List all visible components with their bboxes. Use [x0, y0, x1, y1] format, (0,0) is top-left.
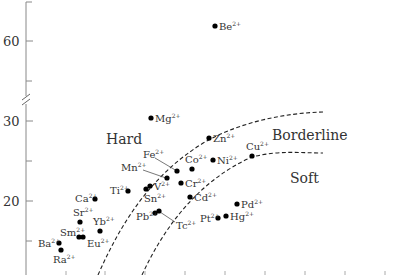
point-hg: [223, 213, 228, 218]
label-pd: Pd2+: [241, 198, 263, 210]
label-ca: Ca2+: [75, 192, 97, 204]
point-fe: [174, 168, 179, 173]
label-mg: Mg2+: [155, 112, 181, 124]
label-cu: Cu2+: [246, 140, 269, 152]
y-tick-label-60: 60: [3, 34, 20, 49]
point-ni: [210, 157, 215, 162]
point-pd: [234, 201, 239, 206]
label-pb: Pb2+: [136, 210, 158, 222]
point-sr: [77, 219, 82, 224]
label-ni: Ni2+: [217, 154, 238, 166]
label-be: Be2+: [219, 20, 241, 32]
point-sn: [143, 186, 148, 191]
ion-labels: Be2+ Mg2+ Zn2+ Cu2+ Ni2+ Co2+ Fe2+ Mn2+ …: [38, 20, 269, 265]
label-zn: Zn2+: [213, 132, 235, 144]
label-cd: Cd2+: [194, 191, 217, 203]
label-sn: Sn2+: [144, 192, 166, 204]
point-cd: [187, 194, 192, 199]
point-cr: [178, 180, 183, 185]
label-mn: Mn2+: [121, 161, 147, 173]
label-co: Co2+: [185, 153, 208, 165]
label-hg: Hg2+: [230, 210, 254, 222]
hsab-scatter-chart: 60 30 20 Hard Borderline Soft: [0, 0, 411, 275]
label-ba: Ba2+: [38, 237, 60, 249]
label-ra: Ra2+: [53, 253, 76, 265]
label-ti: Ti2+: [110, 184, 129, 196]
y-tick-label-30: 30: [3, 114, 20, 129]
point-cu: [249, 153, 254, 158]
point-zn: [206, 135, 211, 140]
region-label-soft: Soft: [290, 170, 319, 186]
point-ra: [58, 247, 63, 252]
point-eu: [80, 234, 85, 239]
y-axis: [26, 2, 33, 275]
x-axis-ticks: [66, 271, 385, 275]
point-mg: [148, 115, 153, 120]
label-fe: Fe2+: [143, 148, 164, 160]
label-v: V2+: [153, 180, 170, 192]
label-yb: Yb2+: [92, 215, 115, 227]
point-co: [189, 166, 194, 171]
label-tc: Tc2+: [176, 219, 196, 231]
region-label-hard: Hard: [106, 131, 142, 147]
label-pt: Pt2+: [200, 212, 220, 224]
point-yb: [97, 228, 102, 233]
label-cr: Cr2+: [185, 177, 206, 189]
label-sr: Sr2+: [73, 206, 94, 218]
y-tick-label-20: 20: [3, 194, 20, 209]
label-eu: Eu2+: [87, 237, 110, 249]
point-be: [212, 23, 217, 28]
region-label-borderline: Borderline: [272, 127, 348, 143]
